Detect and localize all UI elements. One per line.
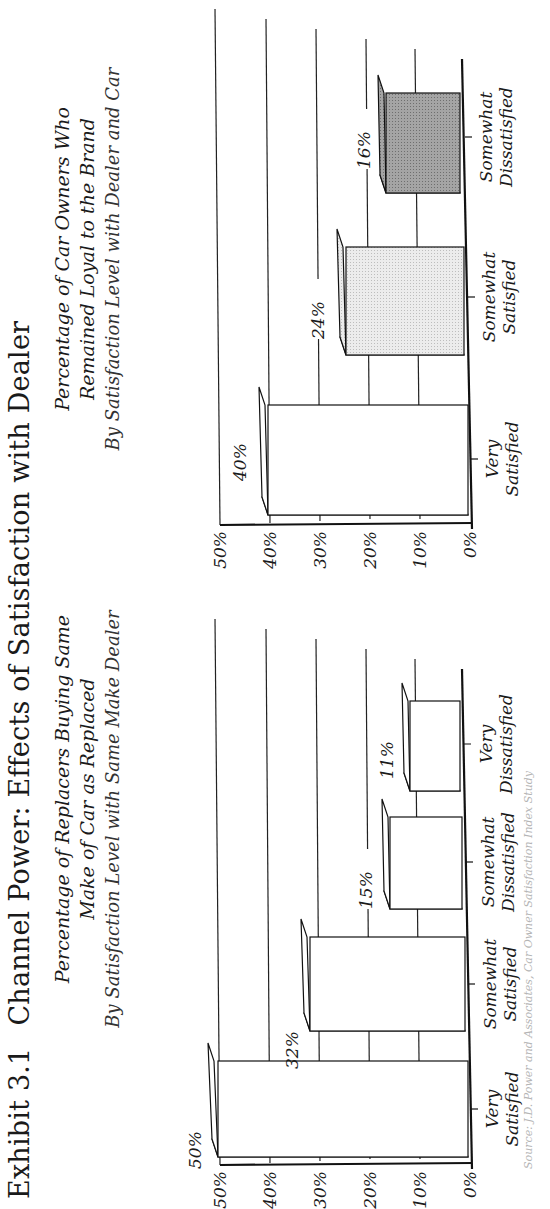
cat-line: Very xyxy=(482,1049,502,1169)
gridline-50 xyxy=(215,9,220,525)
cat-line: Somewhat xyxy=(476,77,496,197)
bar-very-satisfied xyxy=(208,1043,468,1157)
y-tick-label: 20% xyxy=(360,531,380,575)
y-tick-label: 40% xyxy=(260,531,280,575)
y-tick-label: 50% xyxy=(210,1171,230,1209)
y-tick-label: 10% xyxy=(410,1171,430,1209)
category-label: Very Satisfied xyxy=(482,399,522,519)
y-tick-label: 0% xyxy=(460,531,480,575)
category-label: Somewhat Dissatisfied xyxy=(476,77,516,197)
y-tick-label: 0% xyxy=(460,1171,480,1209)
y-tick-label: 50% xyxy=(210,531,230,575)
cat-line: Somewhat xyxy=(480,924,500,1044)
y-axis xyxy=(220,523,472,525)
bar-somewhat-dissatisfied xyxy=(378,75,460,193)
cat-line: Satisfied xyxy=(502,1049,522,1169)
cat-line: Very xyxy=(476,684,496,804)
source-note: Source: J.D. Power and Associates, Car O… xyxy=(522,771,535,1169)
cat-line: Somewhat xyxy=(479,237,499,357)
category-label: Somewhat Dissatisfied xyxy=(478,802,518,922)
category-label: Very Satisfied xyxy=(482,1049,522,1169)
exhibit-title: Exhibit 3.1Channel Power: Effects of Sat… xyxy=(4,321,35,1199)
chart-loyalty-plot xyxy=(50,0,530,569)
category-label: Somewhat Satisfied xyxy=(479,237,519,357)
cat-line: Satisfied xyxy=(500,924,520,1044)
category-label: Somewhat Satisfied xyxy=(480,924,520,1044)
y-tick-label: 30% xyxy=(310,1171,330,1209)
category-label: Very Dissatisfied xyxy=(476,684,516,804)
exhibit-label: Exhibit 3.1 xyxy=(4,1048,35,1199)
value-label: 16% xyxy=(354,109,374,169)
cat-line: Satisfied xyxy=(502,399,522,519)
value-label: 32% xyxy=(282,1009,302,1069)
cat-line: Dissatisfied xyxy=(498,802,518,922)
value-label: 40% xyxy=(230,421,250,481)
cat-line: Dissatisfied xyxy=(496,684,516,804)
cat-line: Somewhat xyxy=(478,802,498,922)
chart-replacers: Percentage of Replacers Buying Same Make… xyxy=(50,589,530,1209)
y-tick-label: 10% xyxy=(410,531,430,575)
bar-somewhat-satisfied xyxy=(337,229,464,355)
value-label: 50% xyxy=(185,1109,205,1169)
y-axis xyxy=(220,1163,472,1165)
bar-very-satisfied xyxy=(259,387,468,515)
exhibit-heading: Channel Power: Effects of Satisfaction w… xyxy=(4,321,35,1026)
y-tick-label: 40% xyxy=(260,1171,280,1209)
cat-line: Dissatisfied xyxy=(496,77,516,197)
bar-very-dissatisfied xyxy=(402,683,460,791)
chart-replacers-plot xyxy=(50,589,530,1209)
value-label: 11% xyxy=(377,719,397,779)
value-label: 24% xyxy=(308,279,328,339)
cat-line: Satisfied xyxy=(499,237,519,357)
y-tick-label: 30% xyxy=(310,531,330,575)
y-tick-label: 20% xyxy=(360,1171,380,1209)
chart-loyalty: Percentage of Car Owners Who Remained Lo… xyxy=(50,0,530,569)
bar-somewhat-satisfied xyxy=(301,919,465,1031)
exhibit-page: Exhibit 3.1Channel Power: Effects of Sat… xyxy=(0,0,550,1209)
value-label: 15% xyxy=(356,849,376,909)
bar-somewhat-dissatisfied xyxy=(382,799,462,909)
cat-line: Very xyxy=(482,399,502,519)
